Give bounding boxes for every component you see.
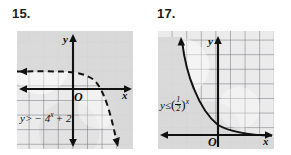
graph-panel-15: y> − 4x + 2 O y x bbox=[17, 31, 133, 149]
equation-label-15: y> − 4x + 2 bbox=[20, 111, 71, 124]
origin-label-17: O bbox=[208, 135, 217, 149]
graph-svg-17 bbox=[158, 31, 274, 149]
origin-label-15: O bbox=[74, 90, 83, 105]
eq-exponent-15: x bbox=[50, 110, 53, 119]
graph-panel-17: y≤(12)x O y x bbox=[158, 31, 274, 149]
eq-rhs-suffix-15: + 2 bbox=[56, 112, 72, 124]
worksheet-page: 15. bbox=[0, 0, 291, 155]
eq-rhs-prefix-15: − 4 bbox=[35, 112, 51, 124]
eq-exponent-17: x bbox=[186, 97, 189, 106]
equation-label-17: y≤(12)x bbox=[160, 96, 189, 114]
problem-number-15: 15. bbox=[12, 6, 31, 21]
shaded-region-17 bbox=[158, 37, 274, 149]
problem-number-17: 17. bbox=[157, 6, 176, 21]
problem-15: 15. bbox=[0, 0, 145, 155]
y-axis-label-15: y bbox=[63, 33, 68, 45]
eq-relation-15: > bbox=[25, 112, 32, 124]
y-axis-label-17: y bbox=[208, 35, 213, 47]
problem-17: 17. bbox=[145, 0, 290, 155]
x-axis-label-17: x bbox=[263, 135, 269, 147]
x-axis-label-15: x bbox=[122, 89, 128, 101]
